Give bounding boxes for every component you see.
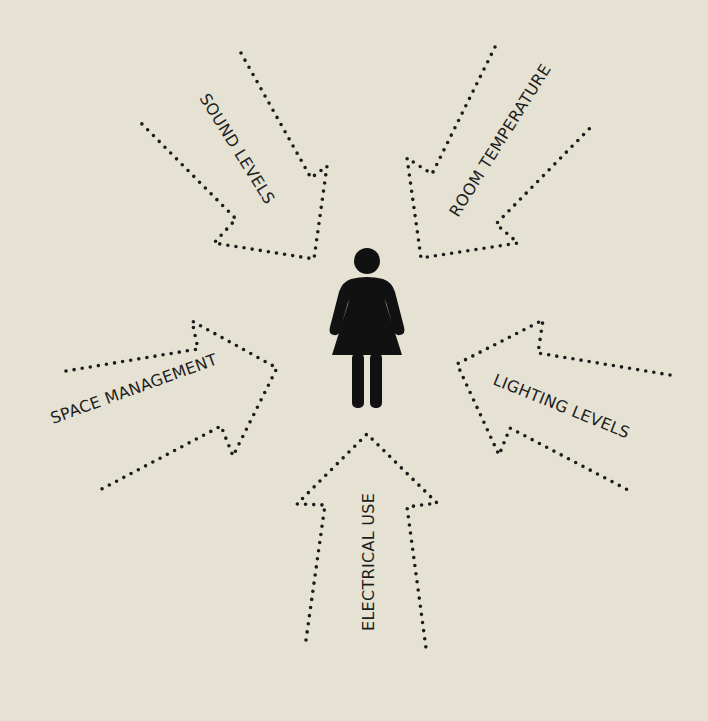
label-electrical-use: ELECTRICAL USE — [359, 493, 378, 631]
arrow-electrical-use: ELECTRICAL USE — [297, 434, 437, 648]
arrow-lighting-levels: LIGHTING LEVELS — [457, 320, 670, 490]
arrow-room-temperature: ROOM TEMPERATURE — [407, 47, 590, 258]
label-sound-levels: SOUND LEVELS — [196, 90, 279, 207]
label-space-management: SPACE MANAGEMENT — [48, 350, 220, 428]
label-room-temperature: ROOM TEMPERATURE — [445, 61, 555, 221]
label-lighting-levels: LIGHTING LEVELS — [491, 370, 633, 442]
person-female-icon — [330, 248, 405, 408]
arrow-sound-levels: SOUND LEVELS — [141, 53, 327, 259]
arrow-space-management: SPACE MANAGEMENT — [48, 321, 277, 491]
diagram-canvas: SOUND LEVELS ROOM TEMPERATURE SPACE MANA… — [0, 0, 708, 721]
